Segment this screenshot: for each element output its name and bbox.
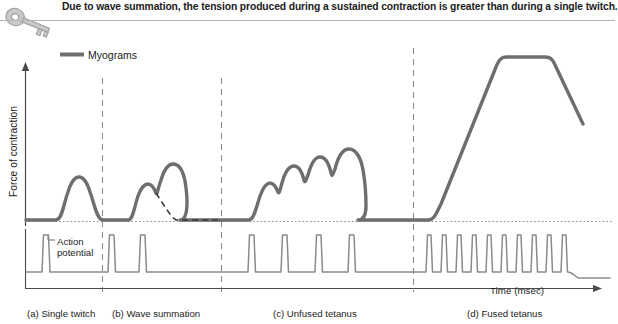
action-potential-label-line2: potential [57, 247, 93, 258]
phase-label-d: (d) Fused tetanus [467, 308, 542, 319]
y-axis-label: Force of contraction [8, 92, 19, 212]
action-potential-panel [25, 229, 610, 292]
action-potential-label: Action potential [57, 236, 93, 258]
legend-label: Myograms [88, 49, 137, 61]
phase-label-b: (b) Wave summation [112, 308, 200, 319]
phase-label-c: (c) Unfused tetanus [273, 308, 357, 319]
time-axis-arrowhead [593, 285, 602, 292]
phase-label-a: (a) Single twitch [27, 308, 95, 319]
action-potential-trace [26, 235, 610, 278]
myogram-curve [26, 57, 583, 220]
phase-dividers [103, 48, 414, 292]
action-potential-label-line1: Action [57, 236, 93, 247]
x-axis-label: Time (msec) [490, 285, 544, 296]
y-axis [22, 62, 29, 226]
